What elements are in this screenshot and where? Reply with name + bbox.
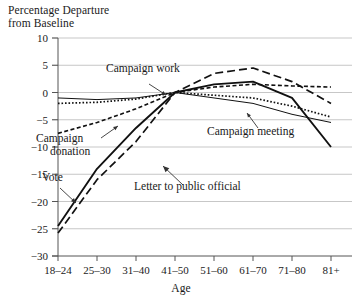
- y-tick-label: −5: [36, 114, 48, 126]
- line-chart-plot: 1050−5−10−15−20−25−30 18–2425–3031–4041–…: [0, 0, 362, 306]
- x-axis-title: Age: [0, 282, 362, 295]
- series-annotation: Letter to public official: [134, 180, 241, 193]
- y-tick-label: −25: [31, 223, 49, 235]
- series-line: [58, 82, 331, 226]
- x-tick-label: 18–24: [44, 264, 72, 276]
- y-tick-label: 0: [43, 87, 49, 99]
- y-tick-label: 5: [43, 59, 49, 71]
- x-tick-label: 25–30: [83, 264, 111, 276]
- chart-figure: Percentage Departure from Baseline 1050−…: [0, 0, 362, 306]
- x-tick-label: 61–70: [239, 264, 267, 276]
- x-tick-label: 51–60: [200, 264, 228, 276]
- series-annotation: Vote: [42, 171, 63, 183]
- y-tick-label: 10: [37, 32, 49, 44]
- x-axis-ticks: 18–2425–3031–4041–5051–6061–7071–8081+: [44, 256, 339, 276]
- y-tick-label: −20: [31, 196, 49, 208]
- series-annotation: Campaign work: [106, 62, 180, 75]
- series-annotations: Campaign workCampaigndonationVoteLetter …: [36, 62, 294, 193]
- x-tick-label: 81+: [322, 264, 339, 276]
- gridlines: [52, 38, 352, 256]
- x-tick-label: 31–40: [122, 264, 150, 276]
- x-tick-label: 71–80: [278, 264, 306, 276]
- y-tick-label: −30: [31, 250, 49, 262]
- y-axis-ticks: 1050−5−10−15−20−25−30: [31, 32, 49, 262]
- series-annotation: Campaign meeting: [207, 125, 294, 138]
- x-tick-label: 41–50: [161, 264, 189, 276]
